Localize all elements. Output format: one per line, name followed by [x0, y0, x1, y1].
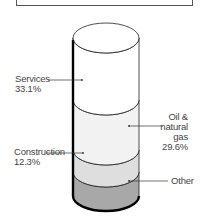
label-construction: Construction 12.3% — [14, 147, 65, 167]
cylinder-top — [73, 23, 139, 53]
label-oil-value: 29.6% — [150, 142, 188, 152]
label-construction-value: 12.3% — [14, 157, 65, 167]
label-services: Services 33.1% — [15, 74, 50, 94]
label-services-value: 33.1% — [15, 84, 50, 94]
label-other-name: Other — [171, 176, 194, 186]
label-other: Other — [171, 176, 194, 186]
label-oil-gas: Oil & natural gas 29.6% — [150, 112, 188, 152]
